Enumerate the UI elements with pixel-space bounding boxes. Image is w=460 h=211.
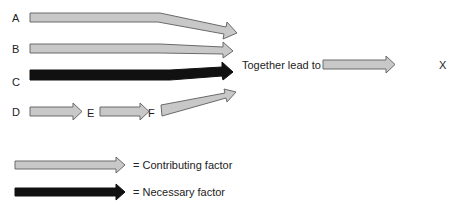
arrow-a [30, 13, 237, 39]
factor-label-f: F [148, 107, 155, 119]
legend-necessary-label: = Necessary factor [133, 186, 225, 198]
arrow-e-f [100, 103, 149, 120]
factor-label-d: D [12, 106, 20, 118]
together-lead-to-text: Together lead to [242, 59, 321, 71]
arrow-f [161, 89, 236, 116]
causal-diagram [0, 0, 460, 211]
legend-contributing-arrow [15, 157, 125, 173]
factor-label-a: A [12, 12, 19, 24]
factor-label-e: E [87, 107, 94, 119]
legend-contributing-label: = Contributing factor [133, 159, 232, 171]
factor-label-c: C [12, 76, 20, 88]
arrow-b [30, 42, 233, 58]
arrow-to-x [323, 56, 395, 73]
factor-label-b: B [12, 43, 19, 55]
arrow-d-e [30, 103, 82, 120]
legend-necessary-arrow [15, 184, 125, 200]
arrow-c [30, 62, 233, 80]
outcome-label-x: X [439, 59, 446, 71]
